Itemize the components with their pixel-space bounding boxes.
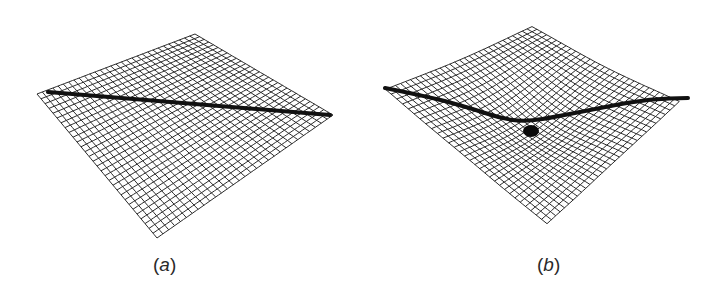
grid-line (133, 99, 305, 209)
grid-line (397, 32, 542, 99)
grid-line (459, 62, 595, 152)
caption-b-close: ) (554, 254, 560, 275)
caption-b: (b) (537, 254, 560, 276)
central-mass (523, 125, 539, 137)
grid-line (403, 35, 547, 104)
caption-a: (a) (153, 254, 176, 276)
grid-line (391, 29, 537, 94)
caption-a-close: ) (170, 254, 176, 275)
grid-line (532, 27, 679, 102)
grid-line (137, 102, 310, 215)
grid-line (41, 37, 200, 99)
spacetime-figure (0, 0, 728, 293)
panel-a-flat-grid (37, 34, 333, 238)
grid-line (145, 107, 319, 224)
grid-line (547, 101, 679, 223)
caption-b-letter: b (543, 254, 554, 275)
caption-a-letter: a (159, 254, 170, 275)
panel-b-curved-grid (385, 27, 688, 224)
grid-line (386, 27, 533, 90)
grid-line (527, 29, 675, 106)
